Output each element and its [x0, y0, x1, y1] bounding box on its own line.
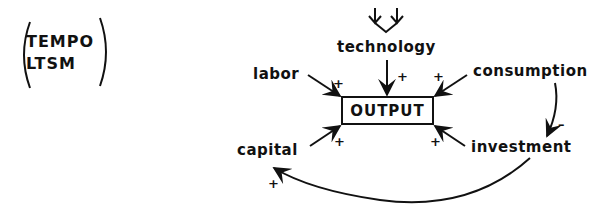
node-technology: technology: [337, 40, 436, 55]
sign-consumption-investment: –: [558, 118, 565, 131]
consumption-to-investment-arrow: [547, 83, 556, 136]
diagram-arrows: [0, 0, 599, 206]
node-output-label: OUTPUT: [350, 102, 425, 120]
node-capital: capital: [237, 143, 298, 158]
node-output: OUTPUT: [341, 96, 434, 125]
node-investment: investment: [471, 140, 572, 155]
sign-labor-output: +: [333, 77, 344, 90]
sign-technology-output: +: [397, 70, 408, 83]
sign-consumption-output: +: [433, 70, 444, 83]
external-input-arrow-icon: [369, 8, 403, 32]
sign-capital-output: +: [334, 135, 345, 148]
sign-investment-capital: +: [268, 177, 279, 190]
investment-to-capital-arrow: [274, 158, 530, 202]
node-labor: labor: [253, 67, 299, 82]
node-consumption: consumption: [473, 64, 588, 79]
sign-investment-output: +: [430, 135, 441, 148]
